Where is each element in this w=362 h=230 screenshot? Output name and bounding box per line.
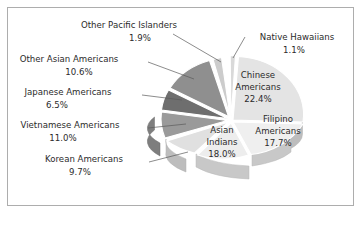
label-other-pacific-islanders-pct: 1.9% [129,33,151,43]
label-japanese-americans-name: Japanese Americans [23,87,112,97]
label-japanese-americans-pct: 6.5% [46,100,68,110]
label-other-asian-americans-pct: 10.6% [65,67,92,77]
label-korean-americans-pct: 9.7% [69,167,91,177]
label-vietnamese-americans-pct: 11.0% [49,133,76,143]
pie-chart-canvas: Other Pacific Islanders 1.9% Native Hawa… [0,0,362,230]
label-native-hawaiians-name: Native Hawaiians [260,32,335,42]
label-asian-indians-line1: Asian [210,125,233,135]
pie-chart-figure: Other Pacific Islanders 1.9% Native Hawa… [0,0,362,230]
slice-depth-vietnamese-americans [147,117,160,156]
label-chinese-americans-line1: Chinese [241,70,275,80]
label-vietnamese-americans-name: Vietnamese Americans [21,120,120,130]
leader-line-native-hawaiians [233,37,245,58]
label-other-pacific-islanders-name: Other Pacific Islanders [81,20,178,30]
label-filipino-americans-line1: Filipino [263,114,293,124]
label-other-asian-americans-name: Other Asian Americans [20,54,119,64]
label-chinese-americans-pct: 22.4% [244,94,271,104]
label-filipino-americans-pct: 17.7% [264,138,291,148]
label-korean-americans-name: Korean Americans [45,154,123,164]
label-asian-indians-pct: 18.0% [208,149,235,159]
leader-line-other-pacific-islanders [173,34,221,62]
label-native-hawaiians-pct: 1.1% [283,45,305,55]
label-asian-indians-line2: Indians [206,137,238,147]
label-filipino-americans-line2: Americans [255,126,301,136]
label-chinese-americans-line2: Americans [235,82,281,92]
